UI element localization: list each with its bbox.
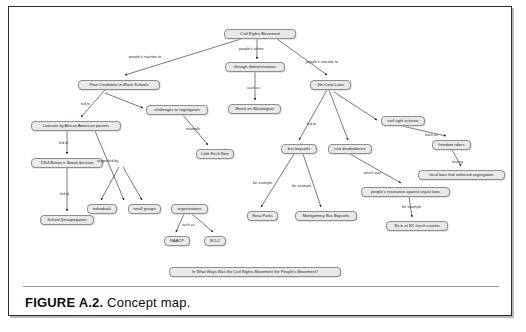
- concept-node-lawsuits: Lawsuits by African American parents: [31, 121, 121, 131]
- concept-node-locallaws: local laws that enforced segregation: [418, 170, 505, 180]
- edge-label-challenges-to-little: example: [186, 128, 200, 132]
- concept-node-disobedience: civil disobedience: [328, 144, 372, 154]
- concept-node-resistance: people's resistance against unjust laws: [361, 187, 450, 197]
- concept-node-organizations: organizations: [171, 204, 208, 214]
- concept-node-crm: Civil Rights Movement: [224, 29, 296, 39]
- figure-number: FIGURE A.2.: [25, 295, 103, 310]
- concept-map: Civil Rights MovementPoor Conditions in …: [9, 7, 513, 279]
- concept-node-jim: Jim Crow Laws: [310, 80, 351, 90]
- edge-label-jim-to-boycotts: led to: [307, 123, 316, 127]
- concept-node-sitin: Sit-in at NC lunch counter: [386, 221, 448, 231]
- concept-node-challenges: challenges to segregation: [146, 105, 208, 115]
- edge-label-crm-to-demos: people's action: [239, 48, 264, 52]
- concept-node-question: In What Ways Was the Civil Rights Moveme…: [169, 267, 341, 277]
- edge-label-lawsuits-to-organizations: supported by: [97, 160, 118, 164]
- concept-node-activists: civil right activists: [381, 116, 425, 126]
- edge-label-resistance-to-sitin: for example: [402, 206, 421, 210]
- edge-label-lawsuits-to-brown: led to: [59, 142, 68, 146]
- edge-label-demos-to-march: such as: [247, 87, 260, 91]
- edge-label-brown-to-desegregation: led to: [60, 193, 69, 197]
- edge-label-organizations-to-naacp: such as: [182, 224, 195, 228]
- concept-node-rosa: Rosa Parks: [247, 211, 278, 221]
- concept-node-individuals: individuals: [87, 204, 117, 214]
- edge-label-boycotts-to-montgomery: for example: [292, 185, 311, 189]
- edge-label-poor-to-lawsuits: led to: [81, 103, 90, 107]
- concept-node-demos: through demonstrations: [225, 62, 285, 72]
- figure-caption: FIGURE A.2. Concept map.: [25, 295, 190, 310]
- edge-label-disobedience-to-resistance: which was: [364, 172, 381, 176]
- concept-node-poor: Poor Conditions in Black Schools: [78, 80, 160, 90]
- concept-node-riders: freedom riders: [432, 140, 471, 150]
- figure-frame: Civil Rights MovementPoor Conditions in …: [8, 6, 512, 316]
- caption-divider: [23, 286, 499, 287]
- concept-node-smallgroups: small groups: [128, 204, 161, 214]
- concept-node-sclc: SCLC: [204, 236, 226, 246]
- edge-label-riders-to-locallaws: testing: [452, 161, 463, 165]
- concept-node-naacp: NAACP: [164, 236, 190, 246]
- concept-node-little: Little Rock Nine: [196, 149, 234, 159]
- concept-node-march: March on Washington: [228, 104, 281, 114]
- figure-title: Concept map.: [107, 295, 190, 310]
- figure-page: Civil Rights MovementPoor Conditions in …: [0, 0, 526, 332]
- edge-label-crm-to-poor: people's reaction to: [129, 56, 161, 60]
- edge-label-crm-to-jim: people's reaction to: [306, 61, 338, 65]
- concept-node-montgomery: Montgomery Bus Boycotts: [295, 211, 357, 221]
- concept-node-desegregation: School Desegregation: [40, 215, 94, 225]
- edge-label-boycotts-to-rosa: for example: [253, 182, 272, 186]
- edge-label-activists-to-riders: such as: [425, 134, 438, 138]
- concept-node-brown: 1954 Brown v. Board decision: [31, 158, 103, 168]
- concept-node-boycotts: bus boycotts: [281, 144, 317, 154]
